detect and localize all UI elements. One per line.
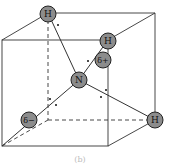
bond-n-delta-minus [2,80,79,146]
atom-label: H [44,9,52,19]
figure-caption: (b) [74,155,85,164]
charge-label: δ+ [97,56,109,65]
electron-dot [49,98,51,100]
atom-n-center: N [71,72,87,88]
electron-dot [57,24,59,26]
atom-h-upper-right: H [100,33,116,49]
electron-dot [100,96,102,98]
atom-h-right: H [147,112,163,128]
atom-label: H [151,115,159,125]
electron-dot [87,60,89,62]
electron-dot [55,104,57,106]
bond-n-h-right [79,80,155,120]
cube-edge-top-right [108,13,155,40]
charge-delta-minus: δ− [21,112,37,128]
atom-label: N [75,75,83,85]
ammonia-cube-diagram: H H δ+ N H δ− (b) [0,0,173,167]
atom-label: H [104,36,112,46]
charge-delta-plus: δ+ [95,52,111,68]
cube-front-face [2,40,108,146]
atom-h-top: H [40,6,56,22]
bond-n-h-top [48,13,79,80]
electron-dot [105,89,107,91]
charge-label: δ− [23,116,35,125]
